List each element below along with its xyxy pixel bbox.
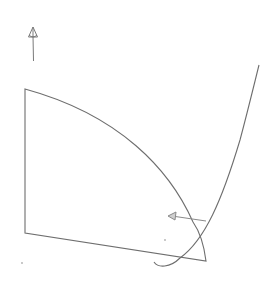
sketch-canvas: [0, 0, 275, 286]
dot-mark: [164, 239, 166, 241]
left-arrow-icon: [168, 212, 206, 221]
dot-mark: [21, 262, 23, 264]
rising-curve: [154, 65, 259, 266]
up-arrow-icon: [29, 27, 38, 61]
quarter-region-shape: [25, 89, 206, 261]
